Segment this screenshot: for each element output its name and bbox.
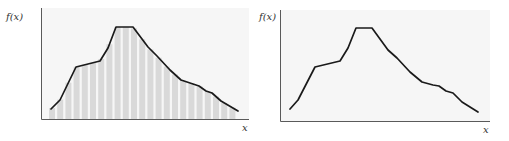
figure: f(x) x f(x) x	[0, 0, 509, 141]
bar	[82, 65, 88, 119]
bar	[90, 63, 96, 119]
bar	[164, 67, 170, 119]
bar	[188, 84, 194, 120]
bar	[74, 67, 80, 119]
bar	[221, 103, 227, 119]
bar	[156, 58, 162, 119]
bar	[49, 108, 55, 119]
right-y-label: f(x)	[258, 11, 276, 22]
left-chart: f(x) x	[5, 8, 249, 133]
bar	[197, 86, 203, 119]
bar	[139, 39, 145, 119]
left-y-label: f(x)	[5, 11, 23, 22]
bar	[180, 81, 186, 119]
right-plot-area	[281, 10, 490, 121]
bar	[115, 27, 121, 119]
bar	[131, 28, 137, 119]
left-x-label: x	[242, 122, 248, 133]
bar	[205, 92, 211, 119]
bar	[213, 97, 219, 119]
right-chart: f(x) x	[258, 10, 490, 135]
bar	[147, 49, 153, 119]
bar	[106, 44, 112, 119]
bar	[98, 59, 104, 119]
right-x-label: x	[483, 124, 489, 135]
bar	[172, 75, 178, 120]
bar	[123, 27, 129, 119]
